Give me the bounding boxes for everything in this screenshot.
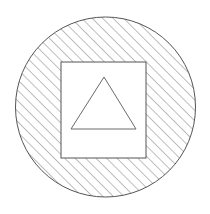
figure-canvas (0, 0, 210, 214)
geometric-diagram (0, 0, 210, 214)
